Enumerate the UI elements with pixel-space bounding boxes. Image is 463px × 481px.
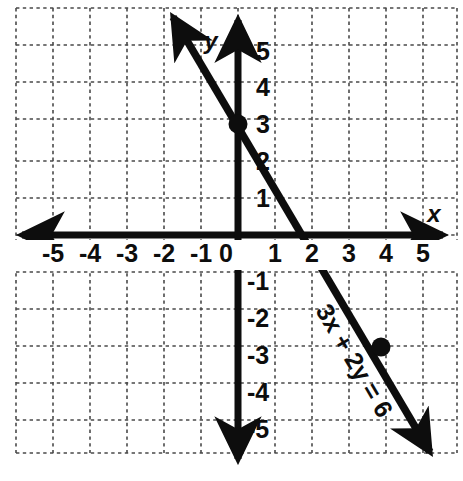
y-tick-label--1: -1 — [247, 267, 269, 295]
x-tick-label--3: -3 — [116, 239, 138, 267]
y-tick-label--5: -5 — [247, 415, 269, 443]
x-tick-labels-positioned: -5 -4 -3 -2 -1 0 1 2 3 4 5 — [0, 239, 463, 270]
x-tick-label--1: -1 — [190, 239, 212, 267]
x-tick-label-4: 4 — [379, 239, 393, 267]
x-tick-label-3: 3 — [342, 239, 356, 267]
point-y-intercept — [229, 115, 248, 134]
x-tick-label-2: 2 — [305, 239, 319, 267]
x-tick-label-1: 1 — [268, 239, 282, 267]
x-axis-label: x — [425, 200, 442, 227]
graph-canvas: -5 -4 -3 -2 -1 0 1 2 3 4 5 5 4 3 2 1 -1 … — [0, 0, 463, 481]
y-tick-label--4: -4 — [247, 378, 269, 406]
y-tick-label-2: 2 — [256, 147, 270, 175]
y-tick-label-3: 3 — [256, 110, 270, 138]
y-axis-label: y — [203, 27, 219, 54]
y-tick-label--2: -2 — [247, 304, 269, 332]
y-tick-label-1: 1 — [256, 184, 270, 212]
point-plotted — [372, 338, 391, 357]
x-tick-label--2: -2 — [153, 239, 175, 267]
y-tick-label-4: 4 — [256, 73, 270, 101]
x-tick-label--5: -5 — [42, 239, 64, 267]
x-tick-label-5: 5 — [416, 239, 430, 267]
coordinate-graph-figure: -5 -4 -3 -2 -1 0 1 2 3 4 5 5 4 3 2 1 -1 … — [0, 0, 463, 481]
y-tick-label-5: 5 — [256, 37, 270, 65]
x-tick-label--4: -4 — [79, 239, 101, 267]
x-tick-label-0: 0 — [219, 239, 233, 267]
y-tick-label--3: -3 — [247, 341, 269, 369]
